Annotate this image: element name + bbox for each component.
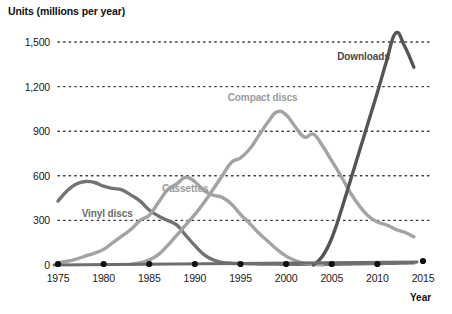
y-tick-label: 0 [6, 259, 50, 271]
x-tick-label: 1985 [129, 272, 169, 284]
chart-container: Units (millions per year) Year 030060090… [0, 0, 452, 314]
y-tick-label: 900 [6, 125, 50, 137]
series-label: Cassettes [162, 183, 208, 194]
x-tick-label: 2015 [403, 272, 443, 284]
x-tick-label: 2005 [312, 272, 352, 284]
y-tick-label: 300 [6, 214, 50, 226]
y-tick-label: 1,500 [6, 36, 50, 48]
series-label: Vinyl discs [82, 208, 133, 219]
tick-marker [101, 261, 107, 267]
x-tick-label: 2000 [266, 272, 306, 284]
tick-marker [55, 261, 61, 267]
x-tick-label: 2010 [357, 272, 397, 284]
gridlines [58, 42, 429, 220]
series-label: Downloads [337, 51, 389, 62]
tick-marker [146, 261, 152, 267]
series-label: Compact discs [228, 92, 298, 103]
y-tick-label: 600 [6, 170, 50, 182]
tick-marker [374, 261, 380, 267]
x-tick-label: 1990 [175, 272, 215, 284]
series-line [58, 181, 414, 264]
tick-marker [283, 261, 289, 267]
plot-area [0, 0, 452, 314]
series-lines [58, 32, 414, 265]
y-tick-label: 1,200 [6, 81, 50, 93]
x-tick-label: 1975 [38, 272, 78, 284]
tick-marker [192, 261, 198, 267]
tick-marker [420, 258, 426, 264]
x-tick-label: 1995 [221, 272, 261, 284]
tick-marker [329, 261, 335, 267]
x-tick-label: 1980 [84, 272, 124, 284]
tick-marker [237, 261, 243, 267]
